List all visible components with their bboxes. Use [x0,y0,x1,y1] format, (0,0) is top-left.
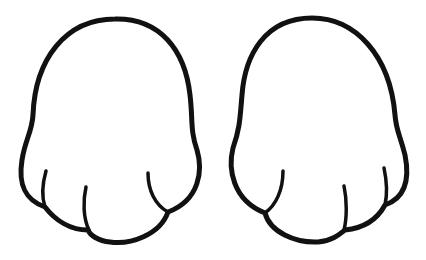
right-paw-outline [231,18,407,242]
right-paw [231,18,407,242]
left-paw [21,19,200,243]
paws-illustration [0,0,426,260]
left-paw-outline [21,19,200,243]
